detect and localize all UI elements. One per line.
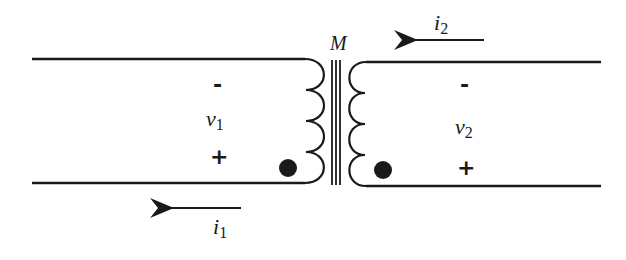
i2-label: i2 [434,10,448,37]
primary-coil [305,59,324,183]
i1-subscript: 1 [219,224,227,241]
i1-label: i1 [213,214,227,241]
secondary-coil [349,62,366,186]
v2-subscript: 2 [465,124,473,141]
coupled-inductor-diagram: M - v1 + - v2 + i2 i1 [0,0,626,260]
v2-minus-sign: - [460,72,469,97]
v1-plus-sign: + [210,144,228,169]
mutual-inductance-label: M [329,32,348,54]
v2-symbol: v [455,114,465,139]
secondary-polarity-dot [374,161,392,179]
v2-plus-sign: + [457,155,475,180]
v1-subscript: 1 [216,116,224,133]
v1-minus-sign: - [213,72,222,97]
i2-subscript: 2 [440,20,448,37]
primary-polarity-dot [279,159,297,177]
v2-label: v2 [455,114,473,141]
v1-label: v1 [206,106,224,133]
v1-symbol: v [206,106,216,131]
